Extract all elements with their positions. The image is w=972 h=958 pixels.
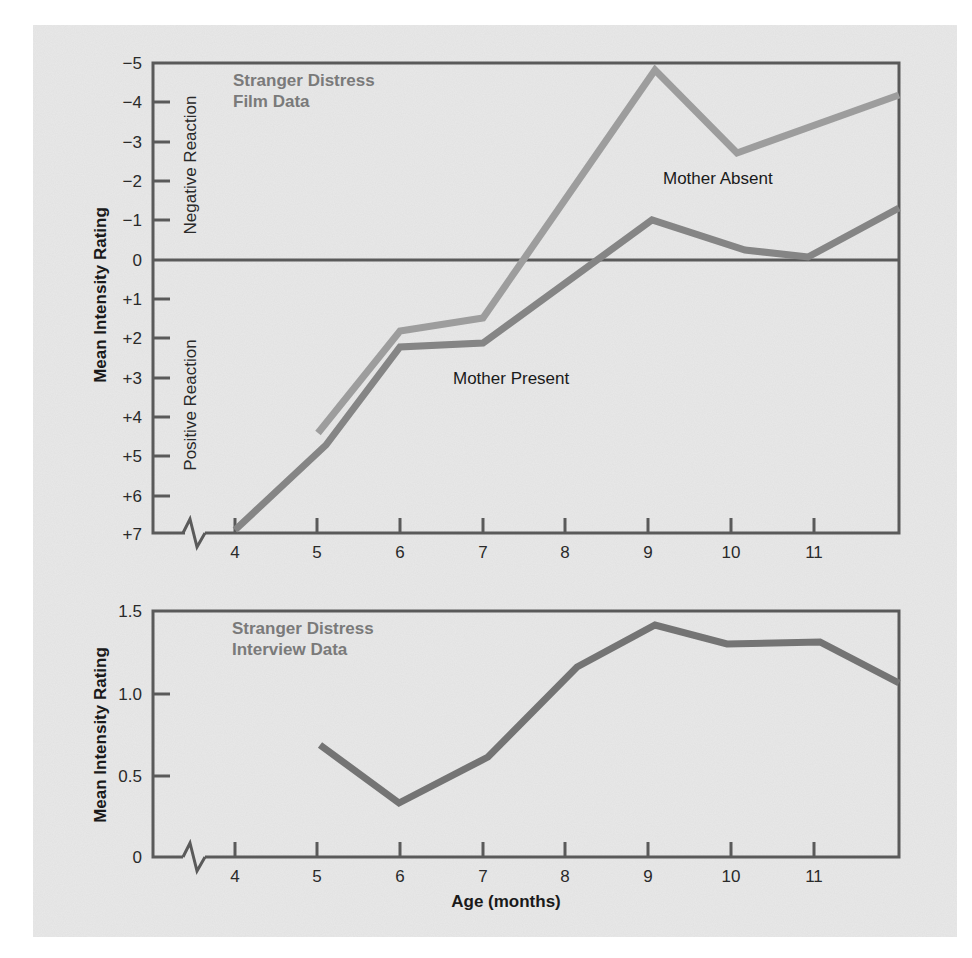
positive-reaction-label: Positive Reaction <box>181 339 200 470</box>
bottom-chart-title-line1: Stranger Distress <box>232 619 374 638</box>
x-tick-label: 8 <box>560 543 569 562</box>
x-tick-label: 5 <box>312 867 321 886</box>
x-tick-label: 4 <box>230 543 239 562</box>
y-tick-label: −4 <box>123 93 142 112</box>
mother-absent-label: Mother Absent <box>663 169 773 188</box>
y-tick-label: 0.5 <box>118 767 142 786</box>
x-tick-label: 9 <box>643 543 652 562</box>
x-tick-label: 9 <box>643 867 652 886</box>
bottom-y-axis-title: Mean Intensity Rating <box>91 647 110 823</box>
mother-present-label: Mother Present <box>453 369 569 388</box>
x-tick-label: 11 <box>805 543 823 562</box>
panel-texture <box>33 25 957 937</box>
x-tick-label: 5 <box>312 543 321 562</box>
figure-svg: −5 −4 −3 −2 −1 0 +1 +2 +3 +4 +5 +6 +7 4 … <box>0 0 972 958</box>
y-tick-label: +1 <box>123 290 142 309</box>
x-tick-label: 10 <box>722 543 741 562</box>
x-tick-label: 10 <box>722 867 741 886</box>
y-tick-label: 0 <box>133 848 142 867</box>
x-tick-label: 6 <box>395 543 404 562</box>
x-tick-label: 7 <box>478 543 487 562</box>
x-tick-label: 7 <box>478 867 487 886</box>
top-chart-title-line2: Film Data <box>233 92 310 111</box>
bottom-chart-title-line2: Interview Data <box>232 640 348 659</box>
x-axis-title: Age (months) <box>451 892 561 911</box>
y-tick-label: −3 <box>123 133 142 152</box>
x-tick-label: 11 <box>805 867 823 886</box>
top-chart-title-line1: Stranger Distress <box>233 71 375 90</box>
y-tick-label: +7 <box>123 525 142 544</box>
y-tick-label: +4 <box>123 408 142 427</box>
x-tick-label: 4 <box>230 867 239 886</box>
y-tick-label: −1 <box>123 211 142 230</box>
x-tick-label: 6 <box>395 867 404 886</box>
y-tick-label: −2 <box>123 172 142 191</box>
y-tick-label: +3 <box>123 369 142 388</box>
y-tick-label: 1.0 <box>118 685 142 704</box>
x-tick-label: 8 <box>560 867 569 886</box>
y-tick-label: −5 <box>123 54 142 73</box>
y-tick-label: +2 <box>123 329 142 348</box>
y-tick-label: 1.5 <box>118 602 142 621</box>
negative-reaction-label: Negative Reaction <box>181 96 200 235</box>
y-tick-label: +6 <box>123 487 142 506</box>
y-tick-label: +5 <box>123 447 142 466</box>
y-tick-label: 0 <box>133 251 142 270</box>
top-y-axis-title: Mean Intensity Rating <box>91 207 110 383</box>
